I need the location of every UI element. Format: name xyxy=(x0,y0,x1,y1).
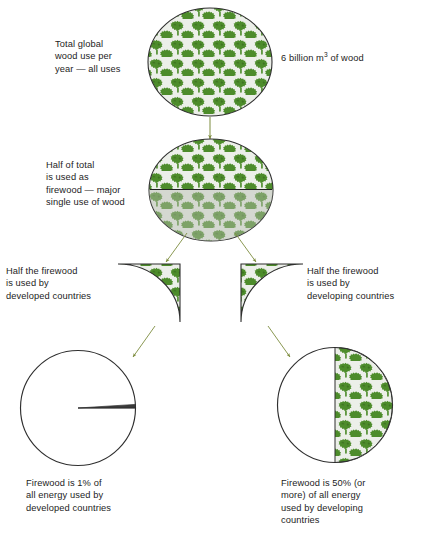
stage-3-developed-quarter xyxy=(118,264,180,322)
label-wood-volume-suffix: of wood xyxy=(328,53,364,63)
label-wood-volume-prefix: 6 billion m xyxy=(281,53,324,63)
caption-pie-developed: Firewood is 1% of all energy used by dev… xyxy=(26,477,166,514)
pie-developing-countries xyxy=(278,348,393,463)
label-developing-countries-share: Half the firewood is used by developing … xyxy=(307,265,419,302)
developed-quarter-shape xyxy=(118,264,180,322)
total-wood-ellipse-shape xyxy=(148,8,272,116)
developing-quarter-shape xyxy=(241,264,303,322)
caption-pie-developing: Firewood is 50% (or more) of all energy … xyxy=(281,477,421,527)
pie-developing-firewood-half xyxy=(335,348,392,463)
arrow-developed-to-pie xyxy=(133,326,155,357)
stage-3-developing-quarter xyxy=(241,264,303,322)
label-half-used-as-firewood: Half of total is used as firewood — majo… xyxy=(46,159,164,209)
label-developed-countries-share: Half the firewood is used by developed c… xyxy=(6,265,114,302)
pie-developed-countries xyxy=(21,351,136,466)
stage-2-firewood-ellipse xyxy=(149,139,273,241)
label-total-wood-use: Total global wood use per year — all use… xyxy=(55,38,165,75)
arrow-firewood-to-developing xyxy=(235,233,256,262)
arrow-firewood-to-developed xyxy=(166,233,187,262)
arrow-developing-to-pie xyxy=(268,326,290,357)
label-wood-volume: 6 billion m3 of wood xyxy=(281,52,413,64)
stage-1-total-wood-ellipse xyxy=(148,8,272,116)
